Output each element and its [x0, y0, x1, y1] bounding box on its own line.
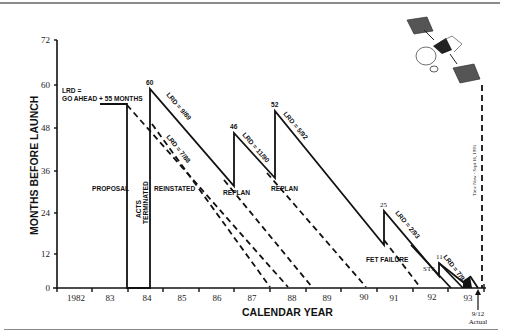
x-tick-85: 85 — [178, 293, 188, 303]
lrd-293-label: LRD = 2/93 — [394, 209, 421, 240]
x-tick-91: 91 — [390, 293, 399, 303]
actual-label: Actual — [469, 318, 488, 326]
actual-date: 9/12 — [472, 310, 485, 318]
point-label-25: 25 — [380, 201, 388, 209]
lrd-label-line1: LRD = — [62, 87, 81, 94]
acts-label: ACTS — [135, 199, 142, 218]
actual-arrow — [475, 289, 481, 310]
x-tick-92: 92 — [428, 292, 437, 302]
x-tick-83: 83 — [106, 293, 116, 303]
satellite-icon — [407, 17, 480, 83]
x-tick-93: 93 — [464, 293, 474, 303]
x-tick-84: 84 — [143, 293, 153, 303]
time-now-label: Time Now - Sept 16, 1993 — [472, 144, 478, 196]
x-tick-1982: 1982 — [67, 293, 85, 303]
point-label-52: 52 — [271, 101, 279, 108]
terminated-label: TERMINATED — [142, 181, 149, 224]
point-label-60: 60 — [146, 79, 154, 86]
x-tick-86: 86 — [213, 293, 223, 303]
lrd-1190-label: LRD = 11/90 — [241, 131, 271, 164]
x-tick-89: 89 — [323, 293, 333, 303]
point-label-46: 46 — [230, 123, 238, 130]
replan-label-1: REPLAN — [223, 189, 250, 196]
x-axis-title: CALENDAR YEAR — [242, 306, 333, 318]
lrd-989-label: LRD = 9/89 — [165, 91, 193, 121]
x-tick-87: 87 — [248, 293, 258, 303]
y-tick-60: 60 — [41, 80, 51, 90]
y-axis-title: MONTHS BEFORE LAUNCH — [28, 96, 40, 235]
sts-label: STS — [423, 265, 435, 273]
reinstated-label: REINSTATED — [154, 185, 195, 192]
proposal-label: PROPOSAL — [92, 185, 129, 192]
lrd-label-line2: GO AHEAD + 55 MONTHS — [62, 95, 143, 102]
replan-label-2: REPLAN — [271, 185, 298, 192]
x-tick-labels: 1982 83 84 85 86 87 88 89 90 91 92 93 — [67, 292, 473, 303]
y-tick-12: 12 — [41, 249, 50, 259]
y-tick-36: 36 — [41, 166, 51, 176]
y-tick-0: 0 — [46, 283, 51, 293]
y-tick-labels: 72 60 48 36 24 12 0 — [41, 35, 51, 293]
y-tick-72: 72 — [41, 35, 50, 45]
x-tick-90: 90 — [360, 292, 370, 302]
schedule-chart: 72 60 48 36 24 12 0 MONTHS BEFORE LAUNCH… — [0, 0, 510, 336]
fet-failure-label: FET FAILURE — [366, 256, 409, 263]
y-tick-24: 24 — [41, 208, 51, 218]
x-tick-88: 88 — [288, 293, 298, 303]
y-tick-48: 48 — [41, 123, 51, 133]
